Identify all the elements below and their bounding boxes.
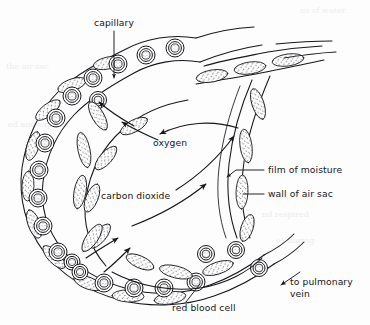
red-blood-cell <box>36 134 54 152</box>
red-blood-cell <box>228 242 245 259</box>
red-blood-cell-label: red blood cell <box>172 302 236 313</box>
red-blood-cell <box>72 264 88 280</box>
film-of-moisture-label: film of moisture <box>268 164 342 175</box>
red-blood-cell <box>109 55 127 73</box>
red-blood-cell <box>251 260 268 277</box>
red-blood-cell <box>30 161 48 179</box>
red-blood-cell <box>47 109 65 127</box>
red-blood-cell <box>29 189 47 207</box>
red-blood-cell <box>84 69 102 87</box>
label-film-of-moisture-group: film of moisture <box>227 164 342 177</box>
vessel-exit-bottom-right <box>264 234 304 264</box>
oxygen-flow-arrows <box>99 102 238 140</box>
red-blood-cell <box>166 39 184 57</box>
wall-of-air-sac-label: wall of air sac <box>268 188 333 199</box>
red-blood-cell <box>95 274 113 292</box>
capillary-label: capillary <box>94 17 134 28</box>
red-blood-cell <box>198 246 215 263</box>
label-wall-of-air-sac-group: wall of air sac <box>243 188 333 199</box>
gas-exchange-diagram: capillary oxygen carbon dioxide film of … <box>0 0 370 325</box>
label-to-pulmonary-vein-group: to pulmonary vein <box>281 272 353 299</box>
co2-arrow-into-sac <box>104 248 130 272</box>
to-pulmonary-vein-label-line2: vein <box>290 288 310 299</box>
red-blood-cell <box>63 87 81 105</box>
red-blood-cell <box>49 243 67 261</box>
carbon-dioxide-label: carbon dioxide <box>101 190 170 201</box>
to-pulmonary-vein-label-line1: to pulmonary <box>290 276 353 287</box>
red-blood-cell <box>34 217 52 235</box>
vessel-branches-top-right <box>196 27 336 62</box>
red-blood-cell <box>137 46 155 64</box>
film-of-moisture-leader <box>227 170 264 177</box>
oxygen-label: oxygen <box>153 137 187 148</box>
